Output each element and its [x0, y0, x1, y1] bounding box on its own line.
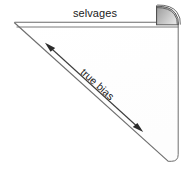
fabric-body-group [15, 22, 179, 161]
selvages-label: selvages [73, 7, 118, 19]
folded-corner-group [157, 5, 181, 25]
diagram-canvas: selvages true bias [0, 0, 192, 177]
fabric-body-shape [15, 22, 179, 161]
fabric-bias-diagram: selvages true bias [0, 0, 192, 177]
